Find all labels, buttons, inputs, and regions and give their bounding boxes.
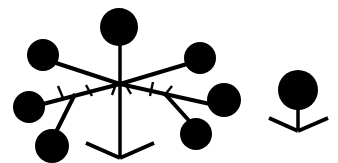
terminal-top-center [100,8,138,46]
terminal-upper-right [184,42,216,74]
diagram-canvas [0,0,338,163]
terminal-lower-right [180,118,212,150]
terminal-upper-left [27,39,59,71]
branching-node-diagram [0,0,338,163]
terminal-mid-left [13,91,45,123]
terminal-mid-right [207,83,241,117]
small-terminal-circle [278,70,318,110]
terminal-lower-left [35,129,69,163]
